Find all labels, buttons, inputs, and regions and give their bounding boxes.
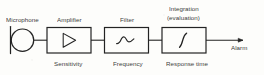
label-frequency: Frequency [113,60,143,67]
amplifier-block[interactable] [47,28,91,54]
amplifier-box [47,28,91,54]
label-filter: Filter [120,16,134,23]
label-amplifier: Amplifier [57,16,82,23]
amplifier-triangle-icon [63,33,75,47]
microphone-block[interactable] [11,27,34,54]
filter-response-curve-icon [117,37,134,44]
microphone-capsule-icon [11,29,33,51]
label-microphone: Microphone [6,16,39,23]
label-sensitivity: Sensitivity [54,60,82,67]
label-integration: Integration [169,5,199,12]
integral-sign-icon [180,33,187,47]
label-response-time: Response time [166,60,208,67]
integration-block[interactable] [162,28,206,54]
output-arrow [206,38,243,42]
label-alarm: Alarm [231,44,247,51]
label-integration-evaluation: (evaluation) [167,14,200,21]
filter-block[interactable] [105,28,149,54]
arrow-right-icon [238,38,243,42]
integration-box [162,28,206,54]
